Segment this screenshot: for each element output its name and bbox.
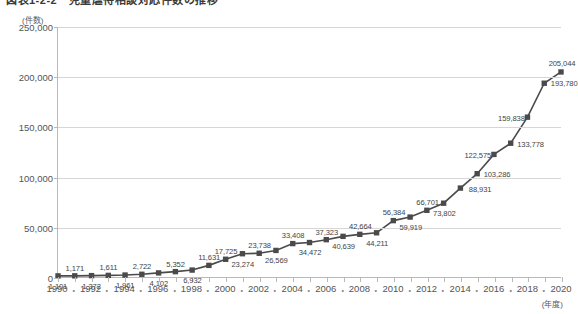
data-point-label: 159,838 bbox=[498, 114, 525, 123]
gridline bbox=[58, 27, 561, 28]
data-point-label: 42,664 bbox=[349, 222, 372, 231]
data-point-label: 66,701 bbox=[416, 198, 439, 207]
data-point-marker bbox=[357, 232, 362, 237]
y-axis-tick bbox=[54, 127, 58, 128]
data-point-label: 59,919 bbox=[399, 223, 422, 232]
x-axis-tick-label: 1992 bbox=[80, 283, 101, 294]
x-axis-tick-label: 2010 bbox=[382, 283, 403, 294]
data-point-marker bbox=[307, 240, 312, 245]
data-point-marker bbox=[189, 267, 194, 272]
x-axis-separator: ・ bbox=[136, 283, 146, 297]
y-axis-tick bbox=[54, 77, 58, 78]
data-point-label: 5,352 bbox=[166, 260, 185, 269]
x-axis-tick-label: 2004 bbox=[282, 283, 303, 294]
data-point-label: 193,780 bbox=[551, 79, 578, 88]
x-axis-tick bbox=[444, 277, 445, 282]
x-axis-tick bbox=[243, 277, 244, 282]
data-point-label: 1,171 bbox=[66, 264, 85, 273]
x-axis-tick bbox=[545, 277, 546, 282]
x-axis-separator: ・ bbox=[438, 283, 448, 297]
x-axis-tick bbox=[310, 277, 311, 282]
x-axis-separator: ・ bbox=[69, 283, 79, 297]
y-axis-tick-label: 50,000 bbox=[24, 222, 53, 233]
x-axis-tick bbox=[108, 277, 109, 282]
x-axis-labels: 1990・1992・1994・1996・1998・2000・2002・2004・… bbox=[57, 283, 561, 297]
x-axis-tick bbox=[142, 277, 143, 282]
data-point-marker bbox=[542, 81, 547, 86]
x-axis-tick-label: 2012 bbox=[416, 283, 437, 294]
x-axis-tick bbox=[276, 277, 277, 282]
data-point-label: 40,639 bbox=[332, 242, 355, 251]
data-point-marker bbox=[240, 251, 245, 256]
x-axis-tick-label: 2002 bbox=[248, 283, 269, 294]
x-axis-tick bbox=[411, 277, 412, 282]
x-axis-tick bbox=[260, 277, 261, 282]
y-axis-tick-label: 100,000 bbox=[19, 172, 53, 183]
x-axis-tick-label: 1994 bbox=[114, 283, 135, 294]
x-axis-tick bbox=[293, 277, 294, 282]
data-point-label: 103,286 bbox=[484, 170, 511, 179]
data-point-label: 23,274 bbox=[231, 260, 254, 269]
data-point-label: 133,778 bbox=[517, 140, 544, 149]
data-point-marker bbox=[257, 251, 262, 256]
data-point-label: 1,611 bbox=[99, 263, 117, 272]
x-axis-tick bbox=[377, 277, 378, 282]
data-point-marker bbox=[290, 241, 295, 246]
data-point-label: 56,384 bbox=[383, 208, 406, 217]
data-point-marker bbox=[223, 257, 228, 262]
x-axis-separator: ・ bbox=[338, 283, 348, 297]
data-point-marker bbox=[391, 218, 396, 223]
data-point-marker bbox=[508, 141, 513, 146]
data-point-marker bbox=[407, 214, 412, 219]
x-axis-tick bbox=[226, 277, 227, 282]
x-axis-tick bbox=[209, 277, 210, 282]
data-point-marker bbox=[173, 269, 178, 274]
data-point-label: 33,408 bbox=[282, 231, 305, 240]
x-axis-tick-label: 2016 bbox=[483, 283, 504, 294]
x-axis-separator: ・ bbox=[102, 283, 112, 297]
data-point-marker bbox=[441, 201, 446, 206]
data-point-label: 44,211 bbox=[366, 239, 388, 248]
x-axis-tick bbox=[344, 277, 345, 282]
x-axis-tick-label: 1996 bbox=[147, 283, 168, 294]
x-axis-separator: ・ bbox=[270, 283, 280, 297]
x-axis-tick-label: 2020 bbox=[550, 283, 571, 294]
y-axis-tick bbox=[54, 178, 58, 179]
y-axis-tick-label: 200,000 bbox=[19, 72, 53, 83]
y-axis-tick-label: 150,000 bbox=[19, 122, 53, 133]
x-axis-tick bbox=[360, 277, 361, 282]
x-axis-separator: ・ bbox=[203, 283, 213, 297]
x-axis-tick bbox=[478, 277, 479, 282]
data-point-marker bbox=[156, 270, 161, 275]
x-axis-tick-label: 2018 bbox=[517, 283, 538, 294]
data-point-marker bbox=[340, 234, 345, 239]
data-point-marker bbox=[324, 237, 329, 242]
x-axis-tick bbox=[428, 277, 429, 282]
x-axis-separator: ・ bbox=[371, 283, 381, 297]
data-point-marker bbox=[474, 171, 479, 176]
x-axis-tick bbox=[562, 277, 563, 282]
page-title: 図表1-2-2 児童虐待相談対応件数の推移 bbox=[6, 0, 218, 7]
x-axis-separator: ・ bbox=[472, 283, 482, 297]
data-point-label: 73,802 bbox=[433, 209, 456, 218]
x-axis-separator: ・ bbox=[506, 283, 516, 297]
data-point-marker bbox=[374, 230, 379, 235]
gridline bbox=[58, 77, 561, 78]
x-axis-tick bbox=[75, 277, 76, 282]
data-point-marker bbox=[424, 208, 429, 213]
x-axis-tick-label: 2000 bbox=[214, 283, 235, 294]
y-axis-tick-label: 250,000 bbox=[19, 22, 53, 33]
x-axis-separator: ・ bbox=[405, 283, 415, 297]
data-point-label: 122,575 bbox=[464, 151, 491, 160]
data-point-label: 205,044 bbox=[549, 59, 576, 68]
data-point-label: 88,931 bbox=[469, 185, 492, 194]
y-axis-tick bbox=[54, 27, 58, 28]
data-point-label: 26,569 bbox=[265, 256, 288, 265]
data-point-label: 37,323 bbox=[315, 228, 338, 237]
x-axis-tick-label: 2006 bbox=[315, 283, 336, 294]
x-axis-tick bbox=[495, 277, 496, 282]
x-axis-tick bbox=[176, 277, 177, 282]
data-point-label: 34,472 bbox=[299, 248, 322, 257]
data-point-marker bbox=[558, 69, 563, 74]
